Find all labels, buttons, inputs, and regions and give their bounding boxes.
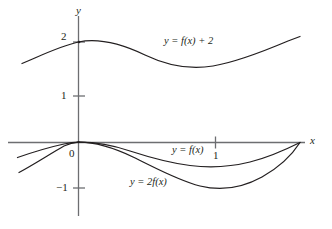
y-tick-label-1: 1	[61, 90, 67, 101]
curve-f	[18, 142, 301, 167]
x-axis-label: x	[310, 135, 315, 146]
x-tick-label-1: 1	[213, 150, 219, 161]
curve-label-f-plus-2: y = f(x) + 2	[164, 36, 213, 47]
curve-label-2f-text: y = 2f(x)	[130, 176, 167, 187]
curve-label-f-plus-2-text: y = f(x) + 2	[164, 35, 213, 46]
curve-label-f-text: y = f(x)	[172, 144, 204, 155]
peak-contact-point	[78, 41, 81, 44]
y-tick-label-2: 2	[61, 31, 67, 42]
curve-label-f: y = f(x)	[172, 145, 204, 156]
y-tick-label-0: 0	[69, 148, 75, 159]
curve-label-2f: y = 2f(x)	[130, 177, 167, 188]
y-tick-label-minus-1: −1	[56, 182, 68, 193]
origin-contact-point	[77, 141, 79, 143]
function-graph-figure: y x 2 1 0 −1 1 y = f(x) + 2 y = f(x) y =…	[0, 0, 332, 229]
y-axis-label: y	[76, 5, 81, 16]
